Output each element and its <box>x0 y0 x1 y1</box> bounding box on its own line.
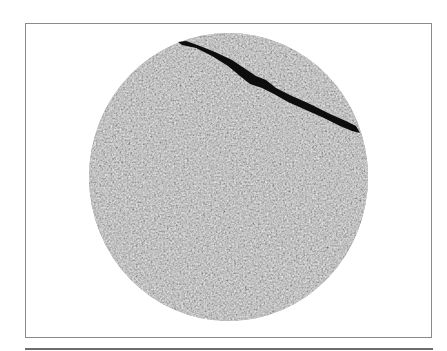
bottom-rule <box>25 348 433 350</box>
ct-scan-image <box>0 0 447 351</box>
specimen-disc <box>85 30 375 325</box>
